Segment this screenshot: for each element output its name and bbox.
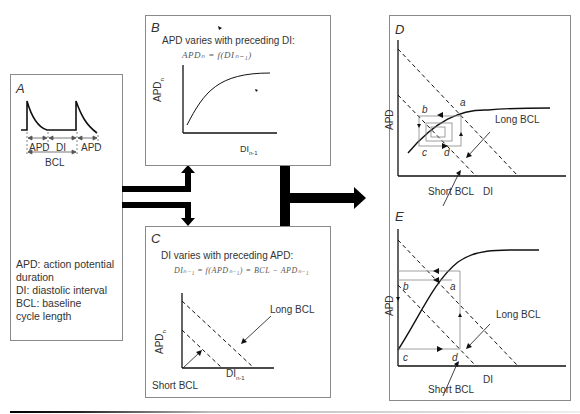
panel-e-point-c: c	[403, 352, 408, 363]
panel-e-long-bcl: Long BCL	[496, 309, 540, 320]
panel-de: D APD DI a b c d Long BCL Short BCL E	[389, 15, 571, 401]
panel-c-short-bcl: Short BCL	[152, 380, 198, 391]
panel-e-point-b: b	[403, 281, 409, 292]
panel-e-ylabel: APD	[384, 295, 395, 316]
panel-e-xlabel: DI	[483, 374, 493, 385]
panel-b-plot	[146, 16, 332, 167]
panel-c-xlabel: DIn-1	[226, 368, 245, 381]
bottom-rule	[10, 411, 580, 413]
panel-b-xlabel: DIn-1	[240, 144, 258, 156]
panel-c-ylabel: APDn	[154, 330, 167, 354]
panel-b-ylabel: APDn	[152, 78, 165, 102]
panel-c-long-bcl: Long BCL	[270, 304, 314, 315]
panel-b: B APD varies with preceding DI: APDₙ = f…	[145, 15, 331, 166]
panel-e-point-d: d	[452, 352, 458, 363]
panel-e-point-a: a	[450, 281, 456, 292]
panel-e-plot	[390, 16, 572, 402]
panel-e-short-bcl: Short BCL	[428, 384, 474, 395]
panel-c: C DI varies with preceding APD: DIₙ₋₁ = …	[145, 226, 331, 398]
